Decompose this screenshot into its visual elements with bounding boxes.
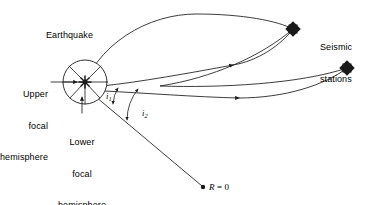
seismic-stations-line2: stations [320,74,367,85]
seismic-stations-line1: Seismic [320,42,367,53]
angle-arc-i1 [113,88,118,104]
earth-center-eq: = 0 [215,182,229,192]
lower-focal-hemisphere-line3: hemisphere [40,200,124,205]
lower-focal-hemisphere-line2: focal [40,169,124,180]
seismic-stations-label: Seismic stations [320,21,367,105]
ray-direct-to-station-1-seg1 [102,65,233,86]
angle-i1-label: i1 [106,91,112,103]
seismic-station-1-marker [285,21,301,37]
ray-lower-to-station-2-seg1 [104,91,239,98]
ray-direct-to-station-1-seg2 [233,29,293,65]
lower-focal-hemisphere-line1: Lower [40,137,124,148]
earthquake-label: Earthquake [46,30,93,41]
earth-center-point [201,185,205,189]
focal-sphere-diagram: Earthquake Upper focal hemisphere Lower … [0,0,367,205]
earth-center-label: R = 0 [209,182,229,193]
angle-i1-sub: 1 [108,95,111,102]
ray-station1-to-station-2 [160,29,347,86]
lower-focal-hemisphere-label: Lower focal hemisphere [40,116,124,205]
angle-i2-label: i2 [142,108,148,120]
angle-arc-i2 [127,89,138,120]
upper-focal-hemisphere-line1: Upper [0,89,48,100]
angle-i2-sub: 2 [144,112,147,119]
ray-upper-arc-to-station-1 [78,14,293,100]
hypocenter-dot [83,80,88,85]
